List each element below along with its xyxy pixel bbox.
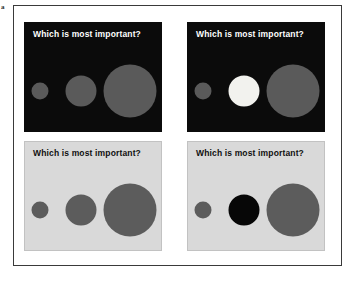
- circle-row-top-left: [25, 49, 161, 132]
- circle-small[interactable]: [32, 202, 49, 219]
- circle-small[interactable]: [195, 202, 212, 219]
- circle-row-bottom-right: [188, 168, 324, 251]
- circle-large[interactable]: [267, 65, 320, 118]
- circle-large[interactable]: [104, 184, 157, 237]
- circle-row-top-right: [188, 49, 324, 132]
- stimulus-panel-bottom-left[interactable]: Which is most important?: [24, 141, 162, 251]
- panel-title-top-left: Which is most important?: [33, 29, 141, 40]
- circle-large[interactable]: [104, 65, 157, 118]
- figure-panel-letter: a: [1, 3, 7, 12]
- circle-small[interactable]: [32, 83, 49, 100]
- circle-medium[interactable]: [66, 195, 97, 226]
- panel-title-bottom-right: Which is most important?: [196, 148, 304, 159]
- circle-large[interactable]: [267, 184, 320, 237]
- circle-small[interactable]: [195, 83, 212, 100]
- figure-root: a Which is most important? Which is most…: [0, 0, 355, 285]
- panel-title-bottom-left: Which is most important?: [33, 148, 141, 159]
- stimulus-panel-bottom-right[interactable]: Which is most important?: [187, 141, 325, 251]
- panel-grid: Which is most important? Which is most i…: [14, 6, 341, 265]
- circle-medium-highlighted[interactable]: [229, 195, 260, 226]
- circle-medium-highlighted[interactable]: [229, 76, 260, 107]
- panel-title-top-right: Which is most important?: [196, 29, 304, 40]
- stimulus-panel-top-left[interactable]: Which is most important?: [24, 22, 162, 132]
- stimulus-panel-top-right[interactable]: Which is most important?: [187, 22, 325, 132]
- circle-row-bottom-left: [25, 168, 161, 251]
- figure-frame: Which is most important? Which is most i…: [13, 5, 342, 266]
- circle-medium[interactable]: [66, 76, 97, 107]
